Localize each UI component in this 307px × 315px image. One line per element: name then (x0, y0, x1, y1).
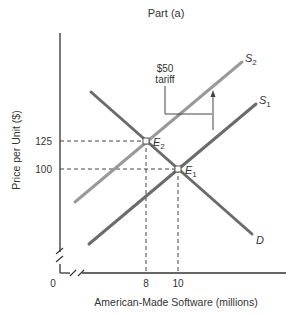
equilibrium-marker-e2 (143, 138, 149, 144)
curve-label-s2: S2 (245, 52, 257, 67)
curve-label-s1: S1 (259, 94, 271, 109)
tariff-label-amount: $50 (157, 63, 174, 74)
tariff-bracket (165, 86, 212, 114)
curve-label-d: D (256, 234, 264, 246)
x-tick-0: 0 (50, 278, 56, 289)
demand-curve-d (91, 92, 252, 234)
tariff-arrow-head-icon (211, 90, 216, 97)
chart-title: Part (a) (148, 7, 185, 19)
y-tick-125: 125 (35, 136, 52, 147)
x-axis-break-mark (70, 270, 76, 276)
supply-curve-s1 (89, 104, 256, 244)
y-axis-label: Price per Unit ($) (10, 110, 22, 189)
tariff-label-text: tariff (155, 74, 174, 85)
equilibrium-marker-e1 (175, 166, 181, 172)
x-tick-10: 10 (172, 278, 184, 289)
x-tick-8: 8 (143, 278, 149, 289)
y-axis-break-mark (56, 256, 63, 262)
y-tick-100: 100 (35, 164, 52, 175)
supply-demand-chart: Part (a) $50 tariff E2 E1 S2 S1 D 125 10… (0, 0, 307, 315)
x-axis-label: American-Made Software (millions) (94, 296, 257, 308)
